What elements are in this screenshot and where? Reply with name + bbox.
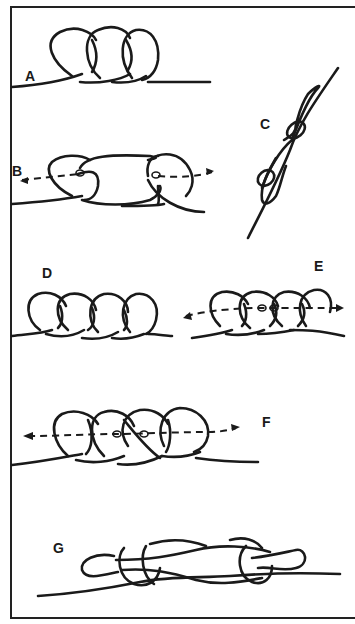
panel-label-c: C (260, 116, 270, 132)
knot-panel-c (248, 68, 338, 238)
panel-label-e: E (314, 258, 323, 274)
knot-panel-g (38, 538, 340, 596)
knot-panel-b (12, 154, 214, 212)
knot-panel-f (12, 408, 258, 465)
knot-panel-e (183, 290, 344, 338)
panel-label-f: F (262, 414, 271, 430)
knot-panel-a (12, 27, 210, 87)
panel-label-d: D (42, 265, 52, 281)
panel-label-b: B (12, 163, 22, 179)
panel-label-a: A (25, 68, 35, 84)
knot-panel-d (12, 293, 172, 339)
panel-label-g: G (53, 540, 64, 556)
